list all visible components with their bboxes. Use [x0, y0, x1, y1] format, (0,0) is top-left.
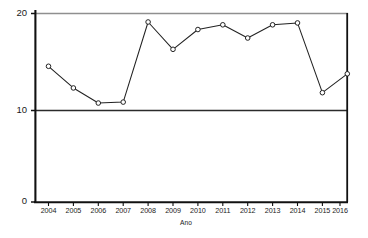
data-point-2011	[221, 23, 226, 28]
xtick-label-2005: 2005	[60, 207, 86, 215]
xtick-label-2012: 2012	[235, 207, 261, 215]
xtick-label-2013: 2013	[260, 207, 286, 215]
xtick-label-2007: 2007	[110, 207, 136, 215]
xtick-label-2010: 2010	[185, 207, 211, 215]
data-point-2015	[320, 90, 325, 95]
data-point-2014	[295, 21, 300, 26]
xtick-label-2014: 2014	[285, 207, 311, 215]
xtick-label-2006: 2006	[85, 207, 111, 215]
plot-area-svg	[0, 0, 368, 238]
data-point-2013	[270, 23, 275, 28]
ytick-label-0: 0	[5, 196, 27, 206]
data-point-2012	[245, 36, 250, 41]
data-point-2004	[46, 64, 51, 69]
ytick-label-20: 20	[5, 8, 27, 18]
xaxis-title: Ano	[156, 219, 216, 226]
data-point-2016	[345, 72, 350, 77]
xtick-label-2016: 2016	[327, 207, 353, 215]
plot-background	[35, 13, 348, 202]
data-point-2006	[96, 101, 101, 106]
xtick-label-2011: 2011	[210, 207, 236, 215]
xtick-label-2008: 2008	[135, 207, 161, 215]
line-chart-figure: 20 10 0 2004 2005 2006 2007 2008 2009 20…	[0, 0, 368, 238]
xtick-label-2004: 2004	[36, 207, 62, 215]
data-point-2009	[171, 47, 176, 52]
data-point-2005	[71, 86, 76, 91]
data-point-2010	[196, 27, 201, 32]
data-point-2007	[121, 100, 126, 105]
data-point-2008	[146, 20, 151, 25]
xtick-label-2009: 2009	[160, 207, 186, 215]
ytick-label-10: 10	[5, 105, 27, 115]
